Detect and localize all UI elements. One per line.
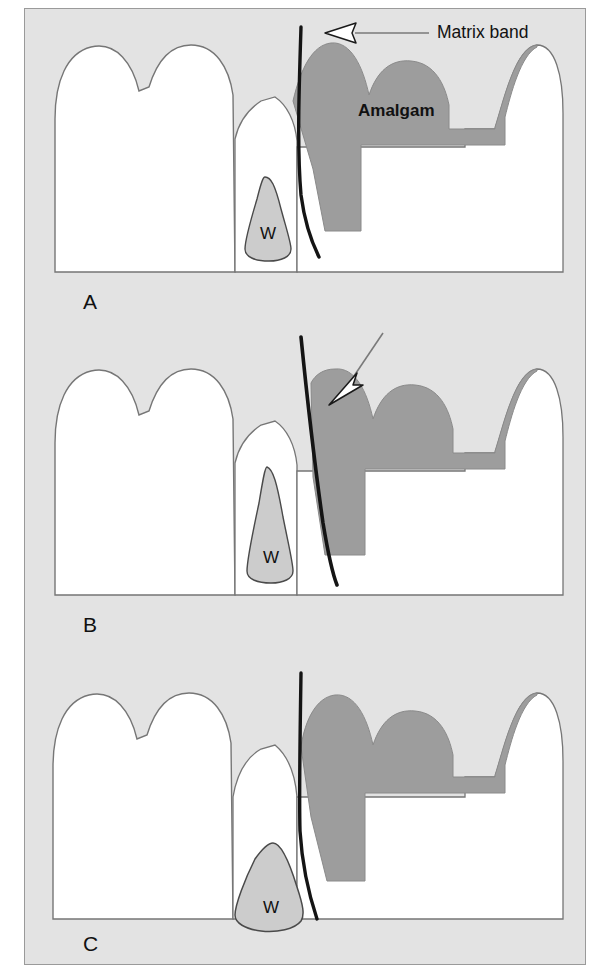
matrix-band-leader-b (352, 333, 383, 379)
wedge-label-a: W (260, 224, 276, 243)
wedge-label-b: W (263, 548, 279, 567)
panel-c: W C (25, 647, 585, 965)
matrix-band-arrow-a (325, 23, 356, 43)
tooth-left-a (55, 45, 235, 272)
panel-letter-b: B (83, 613, 98, 637)
panel-c-illustration: W (25, 647, 585, 965)
panel-letter-a: A (83, 290, 98, 314)
figure-frame: W Matrix band Amalgam A W (24, 8, 586, 965)
panel-a: W Matrix band Amalgam A (25, 9, 585, 327)
matrix-band-label: Matrix band (437, 22, 528, 43)
panel-letter-c: C (83, 932, 99, 956)
wedge-label-c: W (263, 898, 279, 917)
tooth-left-c (53, 693, 233, 919)
amalgam-label: Amalgam (358, 101, 435, 121)
dental-matrix-band-figure: W Matrix band Amalgam A W (0, 0, 610, 974)
panel-b: W B (25, 327, 585, 647)
tooth-left-b (55, 369, 235, 595)
panel-a-illustration: W (25, 9, 585, 327)
panel-b-illustration: W (25, 327, 585, 647)
